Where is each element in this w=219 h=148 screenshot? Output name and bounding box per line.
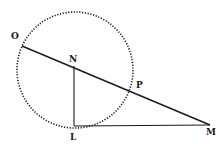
label-n: N (69, 54, 77, 64)
label-p: P (136, 80, 143, 90)
label-m: M (206, 127, 216, 137)
segment-om (22, 46, 210, 125)
geometry-diagram: O N P L M (0, 0, 219, 148)
label-o: O (11, 31, 19, 41)
segment-lm (74, 125, 210, 126)
dotted-circle (17, 12, 133, 128)
label-l: L (70, 132, 77, 142)
